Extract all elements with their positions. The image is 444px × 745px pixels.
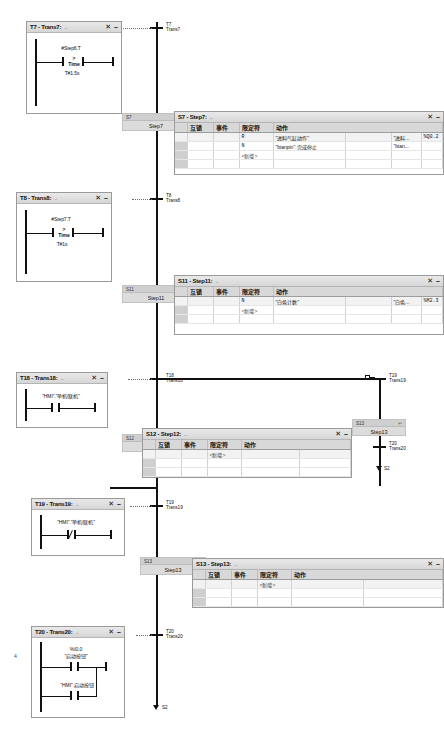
cell-empty[interactable] <box>205 589 231 598</box>
cell-tag[interactable] <box>391 306 421 315</box>
close-icon[interactable]: ✕ <box>427 277 433 284</box>
row-gutter[interactable] <box>175 151 187 160</box>
operand-label-time-const[interactable]: T#1.5s <box>53 70 91 76</box>
row-gutter[interactable] <box>175 142 187 151</box>
action-table-body-s13[interactable]: 互锁 事件 限定符 动作 <新增> <box>193 570 443 606</box>
cell-tag[interactable] <box>299 450 351 459</box>
lad-body-t18[interactable]: "HMI"."单机/联机" <box>17 384 107 426</box>
minimize-icon[interactable]: – <box>117 628 121 635</box>
cell-empty[interactable] <box>391 160 421 169</box>
cell-empty[interactable] <box>181 468 207 477</box>
titlebar-s12[interactable]: S12 - Step12: ... ✕ – <box>143 429 351 440</box>
cell-tag[interactable]: "白色... <box>391 297 421 306</box>
table-row-add-new[interactable]: <新增> <box>193 580 443 589</box>
minimize-icon[interactable]: – <box>436 277 440 284</box>
table-row[interactable]: N "白色计数" "白色... %M2.3 <box>175 297 443 306</box>
window-buttons-s7[interactable]: ✕ – <box>427 113 440 120</box>
close-icon[interactable]: ✕ <box>335 430 341 437</box>
col-header-action[interactable]: 动作 <box>273 123 443 133</box>
window-buttons-s11[interactable]: ✕ – <box>427 277 440 284</box>
table-row-empty[interactable] <box>175 315 443 324</box>
cell-action[interactable] <box>241 450 299 459</box>
table-row-empty[interactable] <box>143 459 351 468</box>
minimize-icon[interactable]: – <box>436 560 440 567</box>
row-gutter[interactable] <box>175 306 187 315</box>
cell-empty[interactable] <box>205 598 231 607</box>
col-header-qualifier[interactable]: 限定符 <box>239 287 273 297</box>
col-header-event[interactable]: 事件 <box>231 570 257 580</box>
cell-empty[interactable] <box>181 459 207 468</box>
minimize-icon[interactable]: – <box>344 430 348 437</box>
table-row-add-new[interactable]: <新增> <box>175 306 443 315</box>
lad-window-t20[interactable]: T20 - Trans20: ... ✕ – %I0.0 "启动按钮" "HMI… <box>31 626 125 718</box>
action-table-s11[interactable]: 互锁 事件 限定符 动作 N "白色计数" "白色... %M2.3 <box>175 287 443 324</box>
row-gutter[interactable] <box>175 160 187 169</box>
cell-empty[interactable] <box>213 160 239 169</box>
cell-empty[interactable] <box>363 589 443 598</box>
cell-empty[interactable] <box>299 468 351 477</box>
cell-action[interactable]: "进料气缸动作" <box>273 133 345 142</box>
cell-address[interactable] <box>421 151 443 160</box>
row-gutter[interactable] <box>193 580 205 589</box>
cell-empty[interactable] <box>421 160 443 169</box>
minimize-icon[interactable]: – <box>104 194 108 201</box>
cell-empty[interactable] <box>155 468 181 477</box>
window-buttons-t18[interactable]: ✕ – <box>91 374 104 381</box>
cell-address[interactable]: %Q0.2 <box>421 133 443 142</box>
close-icon[interactable]: ✕ <box>108 500 114 507</box>
cell-qualifier[interactable]: N <box>239 142 273 151</box>
row-gutter[interactable] <box>143 459 155 468</box>
action-window-s12[interactable]: S12 - Step12: ... ✕ – 互锁 事件 限定符 动作 <box>142 428 352 478</box>
row-gutter[interactable] <box>175 297 187 306</box>
cell-tag[interactable]: "bian... <box>391 142 421 151</box>
col-header-event[interactable]: 事件 <box>213 287 239 297</box>
cell-add-new[interactable]: <新增> <box>239 306 273 315</box>
cell-empty[interactable] <box>273 315 345 324</box>
col-header-interlock[interactable]: 互锁 <box>187 123 213 133</box>
cell-empty[interactable] <box>391 315 421 324</box>
action-table-body-s12[interactable]: 互锁 事件 限定符 动作 <新增> <box>143 440 351 476</box>
cell-qualifier[interactable]: N <box>239 297 273 306</box>
titlebar-s7[interactable]: S7 - Step7: ... ✕ – <box>175 112 443 123</box>
titlebar-t8[interactable]: T8 - Trans8: ... ✕ – <box>17 193 111 204</box>
titlebar-t7[interactable]: T7 - Trans7: ... ✕ – <box>27 22 121 33</box>
table-row-empty[interactable] <box>193 598 443 607</box>
cell-empty[interactable] <box>257 598 291 607</box>
cell-event[interactable] <box>213 133 239 142</box>
close-icon[interactable]: ✕ <box>108 628 114 635</box>
action-table-s7[interactable]: 互锁 事件 限定符 动作 R "进料气缸动作" "进料... %Q0.2 <box>175 123 443 169</box>
row-gutter[interactable] <box>193 598 205 607</box>
cell-empty[interactable] <box>363 598 443 607</box>
window-buttons-t8[interactable]: ✕ – <box>95 194 108 201</box>
cell-empty[interactable] <box>299 459 351 468</box>
action-window-s13[interactable]: S13 - Step13: ... ✕ – 互锁 事件 限定符 动作 <box>192 558 444 608</box>
cell-interlock[interactable] <box>205 580 231 589</box>
cell-interlock[interactable] <box>187 133 213 142</box>
cell-action[interactable]: "bianpin".完成停止 <box>273 142 345 151</box>
cell-empty[interactable] <box>257 589 291 598</box>
operand-label-hmi-mode[interactable]: "HMI"."单机/联机" <box>29 392 93 399</box>
cell-tag[interactable] <box>363 580 443 589</box>
action-table-s13[interactable]: 互锁 事件 限定符 动作 <新增> <box>193 570 443 607</box>
lad-window-t7[interactable]: T7 - Trans7: ... ✕ – #Step6.T > Time T#1… <box>26 21 122 114</box>
cell-event[interactable] <box>181 450 207 459</box>
col-header-qualifier[interactable]: 限定符 <box>257 570 291 580</box>
cell-empty[interactable] <box>241 459 299 468</box>
cell-interlock[interactable] <box>155 450 181 459</box>
operand-label-hmi-mode[interactable]: "HMI"."单机/联机" <box>42 518 110 525</box>
cell-empty[interactable] <box>291 598 363 607</box>
cell-event[interactable] <box>213 306 239 315</box>
cell-empty[interactable] <box>231 598 257 607</box>
minimize-icon[interactable]: – <box>114 23 118 30</box>
titlebar-t18[interactable]: T18 - Trans18: ... ✕ – <box>17 373 107 384</box>
operand-label-time-const[interactable]: T#1s <box>43 241 81 247</box>
titlebar-s13[interactable]: S13 - Step13: ... ✕ – <box>193 559 443 570</box>
operand-label-step7t[interactable]: #Step7.T <box>39 216 83 222</box>
action-table-body-s11[interactable]: 互锁 事件 限定符 动作 N "白色计数" "白色... %M2.3 <box>175 287 443 333</box>
table-row[interactable]: N "bianpin".完成停止 "bian... <box>175 142 443 151</box>
cell-qualifier[interactable]: R <box>239 133 273 142</box>
col-header-qualifier[interactable]: 限定符 <box>207 440 241 450</box>
col-header-interlock[interactable]: 互锁 <box>205 570 231 580</box>
close-icon[interactable]: ✕ <box>91 374 97 381</box>
lad-body-t19[interactable]: "HMI"."单机/联机" <box>32 510 124 554</box>
